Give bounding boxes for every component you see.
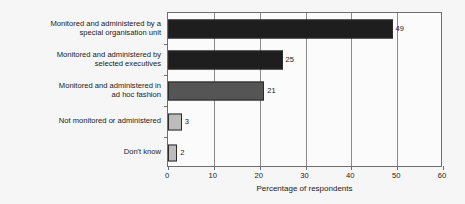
bar-value-label: 49 [393, 25, 404, 33]
bar [168, 113, 182, 130]
x-axis-tick-label: 50 [392, 171, 400, 180]
bar [168, 50, 283, 69]
x-axis-tick-label: 20 [254, 171, 262, 180]
y-axis-category-label: Monitored and administered by aspecial o… [1, 18, 161, 37]
plot-area: 49252132 [167, 12, 442, 167]
x-axis-tick-label: 10 [209, 171, 217, 180]
y-axis-category-label: Monitored and administered byselected ex… [1, 49, 161, 68]
bar-value-label: 21 [264, 87, 275, 95]
x-axis-tick [443, 166, 444, 170]
bar [168, 19, 393, 38]
x-axis-tick-label: 0 [165, 171, 169, 180]
bar-row: 2 [168, 137, 441, 168]
bar-value-label: 3 [182, 118, 189, 126]
x-axis-tick-label: 60 [438, 171, 446, 180]
bar [168, 81, 264, 100]
bar-value-label: 25 [283, 56, 294, 64]
x-axis-tick-label: 30 [300, 171, 308, 180]
y-axis-category-label: Not monitored or administered [1, 116, 161, 126]
bar-row: 3 [168, 106, 441, 137]
bar-row: 49 [168, 13, 441, 44]
x-axis-tick-label: 40 [346, 171, 354, 180]
bar-value-label: 2 [177, 149, 184, 157]
bar-row: 25 [168, 44, 441, 75]
bar-chart: 49252132 Monitored and administered by a… [0, 0, 465, 204]
y-axis-category-label: Don't know [1, 147, 161, 157]
bar [168, 144, 177, 161]
bar-row: 21 [168, 75, 441, 106]
x-axis-title: Percentage of respondents [167, 184, 442, 193]
y-axis-category-label: Monitored and administered inad hoc fash… [1, 80, 161, 99]
